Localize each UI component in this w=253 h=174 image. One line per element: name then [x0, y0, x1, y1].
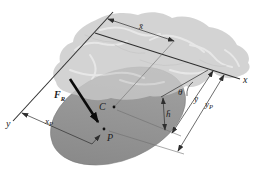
theta-label: θ — [178, 87, 183, 97]
water-surface-shape — [53, 12, 249, 100]
x-bar-label: x̄ — [138, 21, 144, 31]
y-axis-label: y — [5, 118, 11, 129]
pressure-point — [103, 128, 106, 131]
x-p-label: xP — [44, 116, 53, 127]
h-bar-label: h̄ — [166, 109, 171, 119]
diagram-canvas: y x x̄ C P θ ȳ h̄ FR xP yP — [0, 0, 253, 174]
pressure-point-label: P — [106, 132, 113, 143]
y-bar-label: ȳ — [193, 94, 199, 104]
centroid-label: C — [99, 101, 106, 112]
centroid-point — [113, 106, 116, 109]
water-surface — [53, 12, 249, 100]
y-p-label: yP — [204, 99, 213, 110]
x-axis-label: x — [242, 74, 248, 85]
statics-figure: y x x̄ C P θ ȳ h̄ FR xP yP — [0, 0, 253, 174]
